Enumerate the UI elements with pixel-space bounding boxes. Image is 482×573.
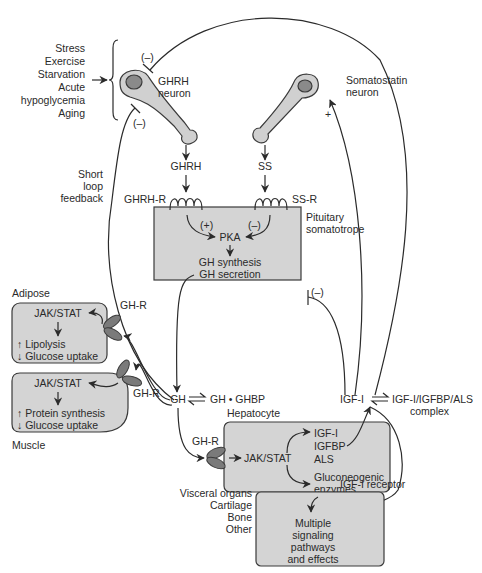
hepatocyte-gh-receptor-label: GH-R <box>192 435 219 447</box>
ss-receptor-label: SS-R <box>292 193 318 205</box>
muscle-effect-2: ↓ Glucose uptake <box>17 419 98 431</box>
hepatocyte-pathway-label: JAK/STAT <box>244 452 292 464</box>
stimuli-brace <box>109 40 118 120</box>
adipose-title: Adipose <box>12 287 50 299</box>
ghrh-neuron-label-2: neuron <box>158 87 191 99</box>
stimulus-starvation: Starvation <box>38 68 85 80</box>
effects-line-2: signaling <box>292 529 334 541</box>
adipose-pathway-label: JAK/STAT <box>34 307 82 319</box>
hepatocyte-product-igf1: IGF-I <box>314 427 338 439</box>
adipose-effect-2: ↓ Glucose uptake <box>17 350 98 362</box>
gh-axis-diagram: Stress Exercise Starvation Acute hypogly… <box>0 0 482 573</box>
ss-label: SS <box>258 160 272 172</box>
ghrh-receptor-label: GHRH-R <box>124 193 166 205</box>
pka-inhibition-sign: (–) <box>248 219 261 231</box>
effects-line-3: pathways <box>291 541 335 553</box>
short-loop-label-3: feedback <box>60 192 103 204</box>
target-cartilage: Cartilage <box>210 499 252 511</box>
adipose-gh-receptor-label: GH-R <box>120 299 147 311</box>
igf-complex-label-2: complex <box>410 405 450 417</box>
ghrh-inhibit-sign-top: (–) <box>141 51 154 63</box>
ghrh-neuron-nucleus <box>126 75 142 89</box>
ghrh-label: GHRH <box>171 160 202 172</box>
ghrh-inhibit-sign-bottom: (–) <box>133 117 146 129</box>
somatostatin-neuron-label-2: neuron <box>346 86 379 98</box>
somatostatin-neuron-nucleus <box>298 80 312 92</box>
muscle-title: Muscle <box>12 439 45 451</box>
hepatocyte-title: Hepatocyte <box>227 407 280 419</box>
muscle-effect-1: ↑ Protein synthesis <box>17 407 105 419</box>
pka-label: PKA <box>219 231 240 243</box>
effects-line-4: and effects <box>287 553 338 565</box>
ghrh-neuron-label: GHRH <box>158 75 189 87</box>
somatostatin-neuron-label: Somatostatin <box>346 74 407 86</box>
effects-line-1: Multiple <box>295 517 331 529</box>
muscle-gh-receptor-label: GH-R <box>133 387 160 399</box>
pituitary-label-1: Pituitary <box>306 211 345 223</box>
target-tissue-list: Visceral organs Cartilage Bone Other <box>180 487 253 535</box>
hepatocyte-product-als: ALS <box>314 453 334 465</box>
gh-secretion-label: GH secretion <box>199 268 260 280</box>
igf1-receptor-label: IGF-I receptor <box>340 478 406 490</box>
igf-to-pituitary-feedback <box>308 297 345 395</box>
stimuli-list: Stress Exercise Starvation Acute hypogly… <box>21 42 85 119</box>
gh-synthesis-label: GH synthesis <box>199 256 261 268</box>
igf-complex-label-1: IGF-I/IGFBP/ALS <box>392 393 473 405</box>
pka-stimulation-sign: (+) <box>200 219 213 231</box>
igf1-label: IGF-I <box>340 393 364 405</box>
stimulus-stress: Stress <box>55 42 85 54</box>
igf-equilibrium-arrows <box>372 393 388 405</box>
pituitary-inhibit-sign: (–) <box>311 286 324 298</box>
muscle-pathway-label: JAK/STAT <box>34 377 82 389</box>
short-loop-label-1: Short <box>78 168 103 180</box>
gh-ghbp-complex-label: GH • GHBP <box>210 393 265 405</box>
stimulus-hypoglycemia: hypoglycemia <box>21 94 85 106</box>
somatostatin-neuron <box>253 74 318 143</box>
gh-to-hepatocyte-arrow <box>178 408 204 458</box>
stimulus-aging: Aging <box>58 107 85 119</box>
target-bone: Bone <box>227 511 252 523</box>
target-visceral-organs: Visceral organs <box>180 487 252 499</box>
target-other: Other <box>226 523 253 535</box>
stimulus-exercise: Exercise <box>45 55 85 67</box>
hepatocyte-product-igfbp: IGFBP <box>314 440 346 452</box>
gh-release-arrow <box>177 275 194 392</box>
ss-stimulation-sign: + <box>325 108 331 120</box>
igf-to-ss-stimulation <box>330 100 362 395</box>
pituitary-label-2: somatotrope <box>306 223 365 235</box>
gh-label: GH <box>170 393 186 405</box>
gh-equilibrium-arrows <box>189 393 205 405</box>
short-loop-label-2: loop <box>83 180 103 192</box>
adipose-effect-1: ↑ Lipolysis <box>17 338 65 350</box>
stimulus-acute: Acute <box>58 81 85 93</box>
